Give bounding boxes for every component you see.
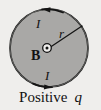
field-out-of-page-dot-icon bbox=[46, 47, 49, 50]
current-label-bottom: I bbox=[45, 69, 49, 82]
magnetic-field-label: B bbox=[31, 49, 40, 63]
figure-caption: Positiveq bbox=[0, 90, 101, 105]
radius-label: r bbox=[59, 27, 64, 40]
caption-word: Positive bbox=[19, 89, 67, 105]
current-label-top: I bbox=[36, 17, 40, 30]
caption-charge-symbol: q bbox=[74, 89, 82, 105]
figure-positive-charge-loop: I I B r Positiveq bbox=[0, 0, 101, 110]
